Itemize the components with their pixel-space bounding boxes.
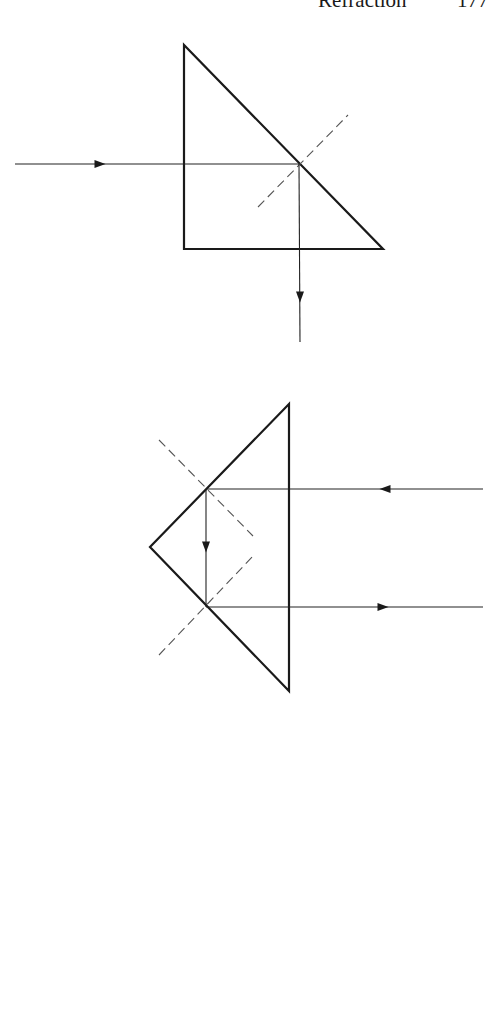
arrow-left-icon — [380, 485, 391, 493]
normal-line — [258, 115, 348, 207]
figure-canvas — [0, 0, 504, 1010]
figure-double-reflection-prism — [150, 404, 483, 691]
arrow-down-icon — [296, 292, 304, 303]
arrow-right-icon — [95, 160, 106, 168]
prism-outline — [184, 45, 383, 249]
figure-single-reflection-prism — [15, 45, 383, 342]
arrow-down-icon — [202, 542, 210, 553]
arrow-right-icon — [378, 603, 389, 611]
reflected-ray — [299, 164, 300, 342]
prism-outline — [150, 404, 289, 691]
